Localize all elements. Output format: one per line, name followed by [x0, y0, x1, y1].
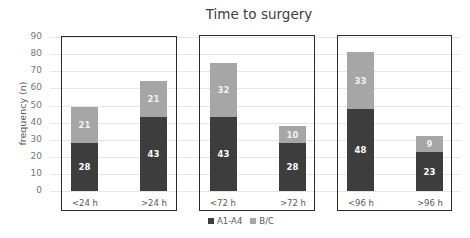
legend-item-a1-a4: A1-A4 [208, 216, 242, 226]
bar-segment-bc: 33 [347, 52, 374, 109]
bar-segment-bc: 21 [140, 81, 167, 117]
y-tick: 20 [26, 151, 42, 161]
legend: A1-A4 B/C [208, 216, 274, 226]
y-tick: 60 [26, 82, 42, 92]
x-category-label: <96 h [336, 198, 386, 208]
legend-label: B/C [259, 216, 274, 226]
legend-item-bc: B/C [250, 216, 274, 226]
legend-label: A1-A4 [217, 216, 242, 226]
x-category-label: >24 h [129, 198, 179, 208]
y-tick: 10 [26, 168, 42, 178]
bar-segment-a1-a4: 28 [279, 143, 306, 191]
y-tick: 30 [26, 134, 42, 144]
x-category-label: <24 h [60, 198, 110, 208]
bar-segment-bc: 32 [210, 63, 237, 117]
y-tick: 50 [26, 100, 42, 110]
y-tick: 90 [26, 31, 42, 41]
bar-segment-bc: 9 [416, 136, 443, 152]
bar-segment-a1-a4: 28 [71, 143, 98, 191]
chart-title: Time to surgery [0, 6, 470, 22]
bar-segment-a1-a4: 23 [416, 152, 443, 191]
bar-segment-bc: 10 [279, 126, 306, 143]
y-tick: 70 [26, 65, 42, 75]
y-tick: 40 [26, 117, 42, 127]
bar-segment-a1-a4: 43 [210, 117, 237, 191]
x-category-label: <72 h [198, 198, 248, 208]
bar-segment-a1-a4: 43 [140, 117, 167, 191]
bar-segment-bc: 21 [71, 107, 98, 143]
x-category-label: >72 h [268, 198, 318, 208]
y-tick: 0 [26, 185, 42, 195]
y-tick: 80 [26, 48, 42, 58]
legend-swatch-dark-icon [208, 218, 214, 224]
x-category-label: >96 h [405, 198, 455, 208]
legend-swatch-light-icon [250, 218, 256, 224]
bar-segment-a1-a4: 48 [347, 109, 374, 191]
